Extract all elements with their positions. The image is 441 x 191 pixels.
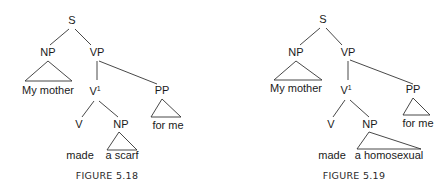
leaf-object: a scarf: [105, 149, 139, 161]
branch-vbar-v: [82, 101, 94, 117]
node-v-bar: V1: [340, 84, 351, 96]
triangle-pp: [403, 98, 430, 115]
triangle-pp: [151, 99, 181, 117]
node-pp: PP: [155, 84, 170, 96]
leaf-pp: for me: [402, 117, 433, 129]
branch-s-vp: [326, 28, 342, 45]
node-pp: PP: [406, 83, 421, 95]
triangle-np-subject: [25, 61, 72, 81]
branch-vbar-np: [350, 100, 369, 117]
node-v-bar: V1: [89, 85, 100, 97]
branch-s-vp: [75, 29, 91, 45]
branch-s-np: [300, 28, 320, 45]
branch-vbar-v: [333, 100, 345, 117]
leaf-pp: for me: [152, 119, 183, 131]
branch-vp-pp: [350, 60, 413, 84]
branch-vbar-np: [99, 101, 118, 117]
leaf-verb: made: [66, 149, 94, 161]
branch-vp-pp: [99, 61, 157, 84]
node-vp: VP: [341, 46, 356, 58]
triangle-np-object: [107, 132, 137, 150]
node-vp: VP: [90, 46, 105, 58]
figure-5-18: S NP VP My mother V1 PP for me V NP made…: [22, 14, 184, 181]
node-np-object: NP: [362, 118, 377, 130]
triangle-np-object: [357, 132, 421, 149]
node-v: V: [327, 118, 335, 130]
figure-caption: FIGURE 5.19: [323, 170, 386, 181]
leaf-subject: My mother: [22, 84, 74, 96]
leaf-subject: My mother: [270, 82, 322, 94]
leaf-verb: made: [318, 149, 346, 161]
node-v: V: [75, 118, 83, 130]
triangle-np-subject: [274, 61, 322, 80]
node-np-object: NP: [113, 118, 128, 130]
node-np-subject: NP: [288, 46, 303, 58]
node-np-subject: NP: [40, 46, 55, 58]
branch-s-np: [50, 29, 69, 45]
node-s: S: [319, 13, 326, 25]
leaf-object: a homosexual: [355, 149, 424, 161]
syntax-tree-diagrams: S NP VP My mother V1 PP for me V NP made…: [0, 0, 441, 191]
node-s: S: [68, 14, 75, 26]
figure-caption: FIGURE 5.18: [76, 170, 139, 181]
figure-5-19: S NP VP My mother V1 PP for me V NP made…: [270, 13, 434, 181]
